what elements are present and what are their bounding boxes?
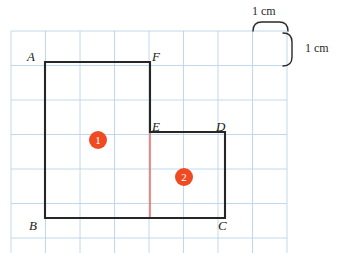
shape-layer	[0, 0, 338, 253]
scale-label-vertical: 1 cm	[305, 42, 329, 54]
vertex-label-e: E	[152, 120, 160, 133]
vertex-label-f: F	[152, 50, 160, 63]
vertex-label-b: B	[29, 219, 37, 232]
region-badge-1: 1	[89, 131, 107, 149]
polygon-outline-ABCDEF	[45, 62, 225, 218]
diagram-canvas: AFEDCB 12 1 cm1 cm	[0, 0, 338, 253]
region-badge-2: 2	[175, 168, 193, 186]
scale-label-horizontal: 1 cm	[252, 5, 276, 17]
vertex-label-a: A	[27, 50, 35, 63]
vertex-label-c: C	[218, 219, 227, 232]
vertex-label-d: D	[216, 120, 225, 133]
